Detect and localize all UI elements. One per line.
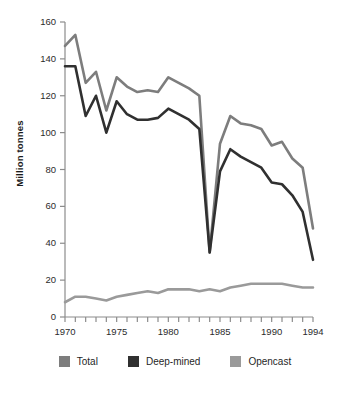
x-tick-label: 1970 [45, 327, 85, 337]
chart-figure: Million tonnes 020406080100120140160 197… [0, 0, 350, 409]
y-tick-label: 140 [0, 54, 56, 64]
y-axis-title: Million tonnes [14, 99, 25, 209]
y-tick-label: 80 [0, 165, 56, 175]
series-line-opencast [65, 284, 313, 302]
legend-swatch-icon [59, 356, 70, 367]
legend-swatch-icon [230, 356, 241, 367]
x-tick-label: 1985 [200, 327, 240, 337]
y-tick-label: 160 [0, 17, 56, 27]
plot-area: Million tonnes 020406080100120140160 197… [0, 0, 350, 350]
legend-item-deep-mined[interactable]: Deep-mined [128, 356, 200, 367]
x-tick-label: 1994 [293, 327, 333, 337]
legend-label: Opencast [248, 357, 291, 367]
x-tick-label: 1980 [148, 327, 188, 337]
y-tick-label: 60 [0, 201, 56, 211]
chart-legend: TotalDeep-minedOpencast [0, 356, 350, 367]
legend-item-total[interactable]: Total [59, 356, 98, 367]
y-tick-label: 120 [0, 91, 56, 101]
y-tick-label: 100 [0, 128, 56, 138]
x-tick-label: 1975 [97, 327, 137, 337]
y-tick-label: 40 [0, 238, 56, 248]
y-tick-label: 0 [0, 312, 56, 322]
legend-label: Deep-mined [146, 357, 200, 367]
y-tick-label: 20 [0, 275, 56, 285]
x-tick-label: 1990 [252, 327, 292, 337]
legend-item-opencast[interactable]: Opencast [230, 356, 291, 367]
legend-swatch-icon [128, 356, 139, 367]
series-line-total [65, 35, 313, 253]
legend-label: Total [77, 357, 98, 367]
